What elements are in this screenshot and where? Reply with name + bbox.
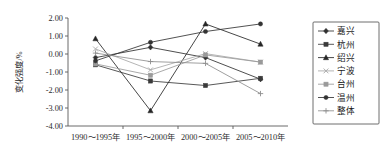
- legend-label: 杭州: [337, 39, 355, 50]
- y-tick-label: -1.00: [46, 68, 63, 77]
- data-point-marker: [93, 59, 97, 63]
- y-tick-label: -2.00: [46, 86, 63, 95]
- data-point-marker: [324, 82, 328, 86]
- data-point-marker: [258, 76, 262, 80]
- data-point-marker: [93, 36, 98, 41]
- series-绍兴: [93, 21, 263, 113]
- legend-label: 台州: [337, 78, 355, 89]
- y-tick-label: -4.00: [46, 122, 63, 131]
- data-point-marker: [203, 53, 207, 57]
- data-point-marker: [258, 60, 262, 64]
- y-tick-label: -3.00: [46, 104, 63, 113]
- y-tick-label: 0.00: [48, 50, 63, 59]
- chart-figure: 2.001.000.00-1.00-2.00-3.00-4.00 1990～19…: [0, 0, 387, 161]
- data-point-marker: [148, 79, 152, 83]
- data-point-marker: [203, 29, 207, 33]
- x-axis-tick-labels: 1990～1995年1995～2000年2000～2005年2005～2010年: [71, 132, 285, 142]
- data-point-marker: [258, 91, 263, 96]
- data-point-marker: [324, 95, 328, 99]
- legend-label: 整体: [337, 105, 355, 116]
- data-point-marker: [203, 21, 208, 26]
- y-tick-label: 1.00: [48, 32, 63, 41]
- series-杭州: [93, 63, 262, 88]
- x-tick-label: 1995～2000年: [126, 132, 175, 142]
- series-layer: [93, 21, 263, 113]
- legend-label: 温州: [337, 93, 355, 103]
- x-tick-label: 2000～2005年: [181, 132, 230, 142]
- data-point-marker: [148, 59, 153, 64]
- series-嘉兴: [93, 45, 263, 82]
- data-point-marker: [258, 22, 262, 26]
- x-tick-label: 2005～2010年: [236, 132, 285, 142]
- legend-label: 绍兴: [337, 52, 355, 63]
- data-point-marker: [148, 40, 152, 44]
- data-point-marker: [324, 42, 328, 46]
- line-chart: 2.001.000.00-1.00-2.00-3.00-4.00 1990～19…: [0, 0, 387, 161]
- data-point-marker: [148, 73, 152, 77]
- data-point-marker: [148, 67, 153, 72]
- y-axis-tick-labels: 2.001.000.00-1.00-2.00-3.00-4.00: [46, 14, 63, 131]
- data-point-marker: [203, 83, 207, 87]
- series-line: [96, 24, 261, 61]
- data-point-marker: [203, 61, 208, 66]
- y-axis-title: 变化强度/%: [14, 51, 24, 92]
- x-tick-label: 1990～1995年: [71, 132, 120, 142]
- y-tick-label: 2.00: [48, 14, 63, 23]
- data-point-marker: [148, 45, 153, 50]
- legend-label: 嘉兴: [337, 25, 355, 36]
- legend-label: 宁波: [337, 65, 355, 76]
